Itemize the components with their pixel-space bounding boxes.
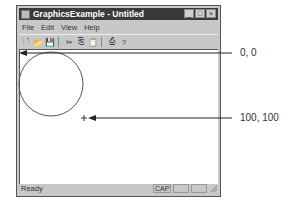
point-label: 100, 100 <box>240 112 279 123</box>
annotation-overlay <box>0 0 303 207</box>
arrow-point <box>88 115 232 121</box>
drawn-circle <box>19 52 83 116</box>
arrow-origin <box>19 50 232 56</box>
crosshair-icon <box>81 115 87 121</box>
origin-label: 0, 0 <box>240 47 257 58</box>
